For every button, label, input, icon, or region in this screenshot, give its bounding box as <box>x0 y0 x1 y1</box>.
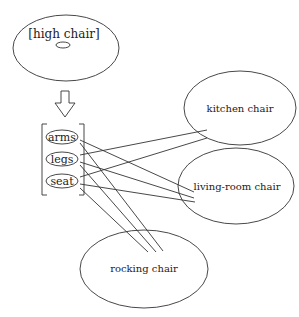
edge-seat-kitchen <box>80 138 207 177</box>
living-room-chair-label: living-room chair <box>194 181 281 192</box>
feature-arms-label: arms <box>48 131 76 144</box>
down-arrow-icon <box>55 91 75 117</box>
rocking-chair-label: rocking chair <box>110 263 178 274</box>
edge-seat-rocking <box>80 188 148 252</box>
feature-seat-label: seat <box>50 175 74 188</box>
high-chair-slot-icon <box>56 42 70 48</box>
high-chair-label: [high chair] <box>28 27 99 41</box>
edges <box>80 130 207 252</box>
feature-legs-label: legs <box>51 153 74 166</box>
edge-legs-rocking <box>80 165 156 252</box>
edge-legs-kitchen <box>80 130 207 155</box>
kitchen-chair-label: kitchen chair <box>207 103 274 114</box>
analogy-diagram: [high chair] arms legs seat kitchen chai… <box>0 0 299 317</box>
